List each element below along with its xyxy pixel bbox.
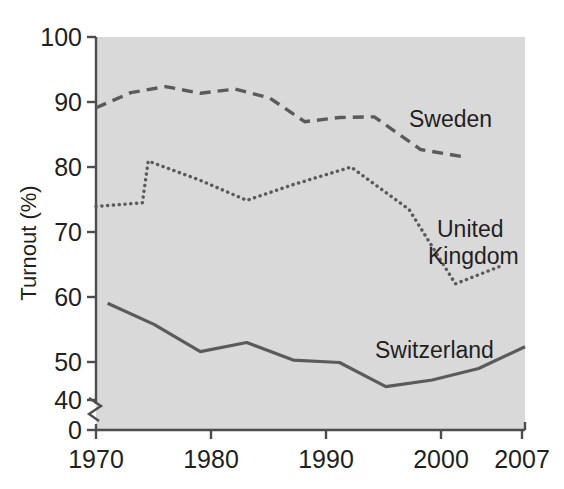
x-tick-label-1990: 1990: [298, 445, 354, 473]
y-tick-label-70: 70: [54, 218, 82, 246]
chart-canvas: 100 90 80 70 60 50 40 0 1970 1980 1990 2…: [0, 0, 564, 489]
y-tick-label-0: 0: [68, 416, 82, 444]
series-label-united-kingdom-line1: United: [437, 216, 503, 242]
y-tick-label-50: 50: [54, 348, 82, 376]
x-tick-label-1980: 1980: [183, 445, 239, 473]
y-tick-label-100: 100: [40, 23, 82, 51]
y-tick-label-80: 80: [54, 153, 82, 181]
y-tick-label-60: 60: [54, 283, 82, 311]
y-tick-label-40: 40: [54, 386, 82, 414]
y-axis-title: Turnout (%): [16, 185, 41, 300]
series-label-sweden: Sweden: [409, 106, 492, 132]
series-label-united-kingdom-line2: Kingdom: [428, 243, 519, 269]
y-tick-label-90: 90: [54, 88, 82, 116]
x-tick-label-2000: 2000: [413, 445, 469, 473]
series-label-switzerland: Switzerland: [375, 337, 494, 363]
x-tick-label-1970: 1970: [68, 445, 124, 473]
turnout-line-chart: 100 90 80 70 60 50 40 0 1970 1980 1990 2…: [0, 0, 564, 489]
x-tick-label-2007: 2007: [494, 445, 550, 473]
